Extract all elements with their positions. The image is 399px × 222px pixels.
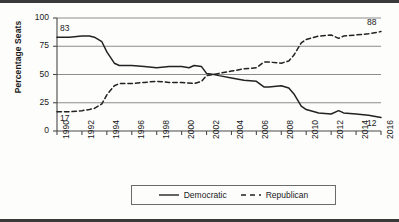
x-tick-label-2000: 2000 xyxy=(186,120,196,139)
x-tick-label-2006: 2006 xyxy=(260,120,270,139)
x-tick-label-2016: 2016 xyxy=(385,120,395,139)
series-line-democratic xyxy=(57,36,381,117)
gridlines-group xyxy=(57,18,381,103)
legend-label-republican: Republican xyxy=(266,190,309,200)
legend-line-solid-icon xyxy=(159,191,179,199)
x-tick-label-1990: 1990 xyxy=(61,120,71,139)
chart-legend: Democratic Republican xyxy=(131,185,336,205)
x-tick-label-1994: 1994 xyxy=(111,120,121,139)
x-tick-label-2012: 2012 xyxy=(335,120,345,139)
legend-item-democratic: Democratic xyxy=(159,190,227,200)
chart-figure: Percentage Seats 0 25 50 75 100 83 17 88… xyxy=(0,0,399,222)
x-tick-label-1998: 1998 xyxy=(161,120,171,139)
x-tick-label-1992: 1992 xyxy=(86,120,96,139)
legend-item-republican: Republican xyxy=(241,190,309,200)
x-tick-label-2010: 2010 xyxy=(310,120,320,139)
x-tick-label-2008: 2008 xyxy=(285,120,295,139)
series-line-republican xyxy=(57,32,381,112)
x-tick-label-2014: 2014 xyxy=(360,120,370,139)
x-tick-label-1996: 1996 xyxy=(136,120,146,139)
x-tick-label-2004: 2004 xyxy=(235,120,245,139)
legend-line-dashed-icon xyxy=(241,191,261,199)
legend-label-democratic: Democratic xyxy=(184,190,227,200)
x-tick-label-2002: 2002 xyxy=(211,120,221,139)
